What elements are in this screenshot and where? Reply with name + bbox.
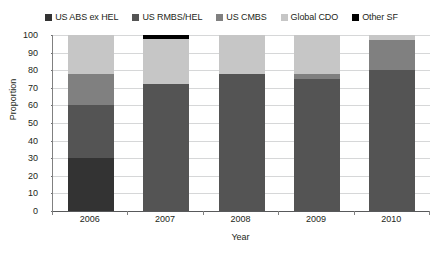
legend-swatch-icon bbox=[281, 14, 288, 21]
y-tick-label: 60 bbox=[28, 101, 38, 110]
bar-segment[interactable] bbox=[68, 105, 114, 158]
y-tick-label: 20 bbox=[28, 171, 38, 180]
bar-segment[interactable] bbox=[68, 74, 114, 106]
legend-swatch-icon bbox=[45, 14, 52, 21]
x-tick-label: 2007 bbox=[135, 215, 195, 224]
legend-item-label: US CMBS bbox=[226, 13, 266, 22]
bar-segment[interactable] bbox=[369, 35, 415, 40]
bar-segment[interactable] bbox=[68, 35, 114, 74]
legend-item-label: Other SF bbox=[362, 13, 398, 22]
y-tick-label: 70 bbox=[28, 83, 38, 92]
bar-segment[interactable] bbox=[68, 158, 114, 211]
legend-swatch-icon bbox=[132, 14, 139, 21]
legend-item: US RMBS/HEL bbox=[132, 13, 202, 22]
y-tick-label: 50 bbox=[28, 119, 38, 128]
bar-segment[interactable] bbox=[369, 40, 415, 70]
bar-segment[interactable] bbox=[143, 35, 189, 39]
legend-item: US CMBS bbox=[216, 13, 266, 22]
legend-item-label: Global CDO bbox=[291, 13, 339, 22]
y-tick-label: 40 bbox=[28, 136, 38, 145]
y-tick-label: 100 bbox=[23, 31, 38, 40]
x-axis-tick-labels: 20062007200820092010 bbox=[52, 215, 429, 227]
bar-segment[interactable] bbox=[143, 39, 189, 85]
x-axis-title: Year bbox=[52, 233, 429, 242]
bar-segment[interactable] bbox=[219, 74, 265, 211]
bar-segment[interactable] bbox=[294, 79, 340, 211]
x-tick-label: 2010 bbox=[361, 215, 421, 224]
legend-item: Global CDO bbox=[281, 13, 339, 22]
chart-container: US ABS ex HELUS RMBS/HELUS CMBSGlobal CD… bbox=[0, 0, 443, 259]
bar-group[interactable] bbox=[294, 35, 340, 211]
y-tick-label: 80 bbox=[28, 66, 38, 75]
bar-group[interactable] bbox=[143, 35, 189, 211]
chart-legend: US ABS ex HELUS RMBS/HELUS CMBSGlobal CD… bbox=[0, 9, 443, 25]
bar-segment[interactable] bbox=[219, 35, 265, 74]
legend-item-label: US ABS ex HEL bbox=[55, 13, 118, 22]
x-tick-mark bbox=[429, 211, 430, 215]
y-tick-label: 10 bbox=[28, 189, 38, 198]
y-tick-label: 90 bbox=[28, 48, 38, 57]
bar-segment[interactable] bbox=[294, 74, 340, 79]
bar-group[interactable] bbox=[369, 35, 415, 211]
x-tick-label: 2009 bbox=[286, 215, 346, 224]
bar-segment[interactable] bbox=[294, 35, 340, 74]
y-axis-tick-labels: 0102030405060708090100 bbox=[0, 35, 46, 211]
bar-group[interactable] bbox=[219, 35, 265, 211]
y-tick-label: 0 bbox=[33, 207, 38, 216]
bar-segment[interactable] bbox=[369, 70, 415, 211]
y-tick-label: 30 bbox=[28, 154, 38, 163]
legend-swatch-icon bbox=[216, 14, 223, 21]
legend-item: Other SF bbox=[352, 13, 398, 22]
bar-group[interactable] bbox=[68, 35, 114, 211]
legend-swatch-icon bbox=[352, 14, 359, 21]
legend-item-label: US RMBS/HEL bbox=[142, 13, 202, 22]
x-tick-label: 2008 bbox=[211, 215, 271, 224]
x-tick-label: 2006 bbox=[60, 215, 120, 224]
bar-segment[interactable] bbox=[143, 84, 189, 211]
plot-area bbox=[52, 35, 430, 212]
legend-item: US ABS ex HEL bbox=[45, 13, 118, 22]
